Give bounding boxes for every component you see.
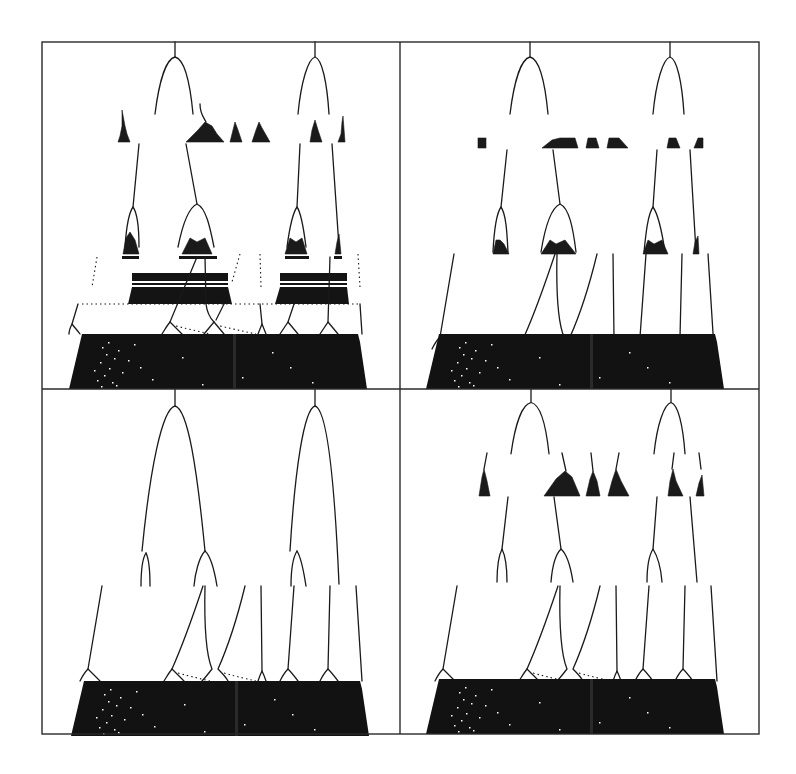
panel-top-left bbox=[69, 42, 367, 389]
level2-islands bbox=[478, 138, 703, 148]
panel-top-right bbox=[426, 42, 724, 389]
bifurcation-figure bbox=[0, 0, 796, 774]
level3-bands bbox=[128, 273, 349, 304]
panel-bottom-left bbox=[71, 389, 369, 736]
level2-islands bbox=[118, 104, 345, 142]
level2-islands bbox=[479, 453, 704, 496]
panel-bottom-right bbox=[426, 389, 724, 734]
